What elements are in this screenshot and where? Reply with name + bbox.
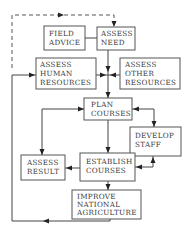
arrowhead-into-improve bbox=[106, 184, 111, 190]
svg-text:ADVICE: ADVICE bbox=[48, 38, 80, 47]
edge-plan-develop bbox=[132, 109, 154, 127]
node-label-line: RESULT bbox=[27, 167, 59, 176]
svg-text:RESOURCES: RESOURCES bbox=[125, 78, 176, 87]
node-field-advice: FIELD ADVICE bbox=[44, 26, 85, 50]
arrowhead-bottom-left bbox=[43, 219, 49, 224]
node-label-line: OTHER bbox=[125, 69, 154, 78]
arrowhead-plan-right bbox=[133, 107, 139, 112]
node-plan-courses: PLAN COURSES bbox=[84, 98, 132, 120]
node-assess-need: ASSESS NEED bbox=[97, 27, 135, 50]
svg-text:RESOURCES: RESOURCES bbox=[40, 78, 91, 87]
flowchart: FIELD ADVICE ASSESS NEED ASSESS HUMAN RE… bbox=[0, 0, 190, 237]
arrowhead-into-assess-result bbox=[66, 166, 72, 171]
edge-assess-result-plan-courses bbox=[42, 109, 84, 155]
node-label-line: ESTABLISH bbox=[86, 157, 133, 166]
svg-text:ASSESS: ASSESS bbox=[100, 29, 133, 38]
node-label-line: RESOURCES bbox=[125, 78, 176, 87]
svg-text:PLAN: PLAN bbox=[91, 100, 113, 109]
node-label-line: ADVICE bbox=[48, 38, 80, 47]
arrowhead-into-assess-need bbox=[112, 21, 117, 27]
node-label-line: COURSES bbox=[86, 166, 126, 175]
node-label-line: STAFF bbox=[135, 140, 161, 149]
svg-text:RESULT: RESULT bbox=[27, 167, 59, 176]
node-label-line: DEVELOP bbox=[135, 131, 174, 140]
node-label-line: RESOURCES bbox=[40, 78, 91, 87]
svg-text:ASSESS: ASSESS bbox=[124, 60, 157, 69]
node-label-line: PLAN bbox=[91, 100, 113, 109]
node-develop-staff: DEVELOP STAFF bbox=[130, 127, 181, 156]
node-label-line: HUMAN bbox=[40, 69, 73, 78]
node-label-line: ASSESS bbox=[39, 60, 72, 69]
node-improve-national-agriculture: IMPROVE NATIONAL AGRICULTURE bbox=[72, 190, 141, 219]
svg-text:DEVELOP: DEVELOP bbox=[135, 131, 174, 140]
svg-text:STAFF: STAFF bbox=[135, 140, 161, 149]
node-assess-human-resources: ASSESS HUMAN RESOURCES bbox=[36, 58, 96, 89]
node-label-line: COURSES bbox=[91, 109, 131, 118]
node-label-line: ASSESS bbox=[26, 158, 59, 167]
arrowhead-into-establish-right bbox=[136, 165, 142, 170]
svg-text:COURSES: COURSES bbox=[86, 166, 126, 175]
node-label-line: ASSESS bbox=[124, 60, 157, 69]
svg-text:AGRICULTURE: AGRICULTURE bbox=[76, 208, 137, 217]
svg-text:ASSESS: ASSESS bbox=[26, 158, 59, 167]
arrowhead-human-junction bbox=[100, 73, 106, 78]
node-label-line: AGRICULTURE bbox=[76, 208, 137, 217]
arrowhead-dashed-mid bbox=[58, 13, 64, 18]
node-label-line: ASSESS bbox=[100, 29, 133, 38]
arrowhead-into-develop-staff bbox=[152, 121, 157, 127]
arrowhead-into-plan-courses-top bbox=[106, 92, 111, 98]
svg-text:FIELD: FIELD bbox=[49, 29, 74, 38]
svg-text:NEED: NEED bbox=[101, 38, 125, 47]
svg-text:ESTABLISH: ESTABLISH bbox=[86, 157, 133, 166]
node-label-line: FIELD bbox=[49, 29, 74, 38]
svg-text:HUMAN: HUMAN bbox=[40, 69, 73, 78]
arrowhead-into-plan-courses-left bbox=[78, 107, 84, 112]
svg-text:ASSESS: ASSESS bbox=[39, 60, 72, 69]
node-establish-courses: ESTABLISH COURSES bbox=[80, 153, 135, 181]
arrowhead-need-down bbox=[106, 66, 111, 72]
svg-text:COURSES: COURSES bbox=[91, 109, 131, 118]
arrowhead-other-junction bbox=[110, 73, 116, 78]
node-assess-result: ASSESS RESULT bbox=[21, 155, 65, 180]
arrowhead-assess-result-top bbox=[40, 149, 45, 155]
node-label-line: NEED bbox=[101, 38, 125, 47]
arrowhead-into-establish-top bbox=[106, 147, 111, 153]
arrowhead-develop-bottom bbox=[151, 157, 156, 163]
svg-text:OTHER: OTHER bbox=[125, 69, 154, 78]
arrowhead-into-assess-human bbox=[29, 73, 35, 78]
edge-develop-establish bbox=[135, 156, 153, 167]
node-assess-other-resources: ASSESS OTHER RESOURCES bbox=[120, 58, 180, 89]
